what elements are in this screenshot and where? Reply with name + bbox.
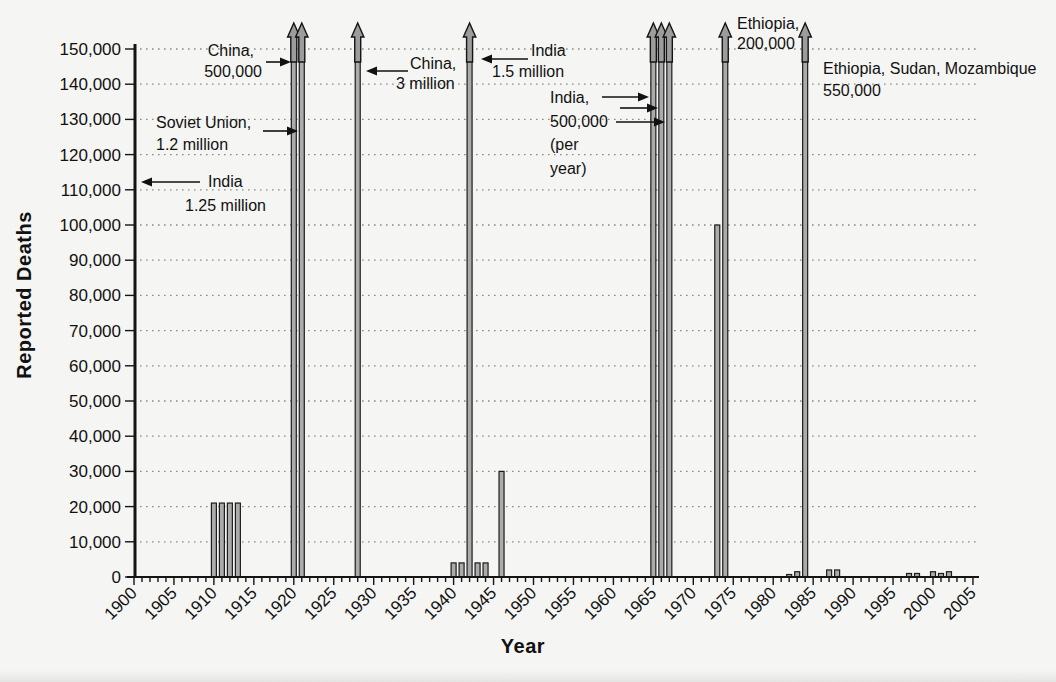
famine-reported-deaths-chart: 010,00020,00030,00040,00050,00060,00070,…	[0, 0, 1056, 682]
bar-1921	[299, 58, 304, 577]
y-tick-label: 20,000	[69, 498, 121, 517]
scan-artifact-band	[0, 670, 1056, 682]
y-tick-label: 100,000	[60, 216, 121, 235]
x-tick-label: 1990	[820, 583, 860, 623]
annotation-china-1928: China,3 million	[396, 55, 456, 92]
chart-plot-area: 010,00020,00030,00040,00050,00060,00070,…	[0, 0, 1056, 682]
y-tick-label: 130,000	[60, 110, 121, 129]
y-tick-label: 90,000	[69, 251, 121, 270]
y-tick-label: 110,000	[61, 181, 121, 200]
y-tick-label: 120,000	[60, 146, 121, 165]
x-tick-label: 1985	[780, 583, 820, 623]
annotation-ethiopia-1974: Ethiopia,200,000	[737, 15, 799, 52]
y-tick-label: 60,000	[69, 357, 121, 376]
annotation-india-1942: India1.5 million	[492, 42, 566, 80]
annotation-arrowhead	[366, 67, 377, 76]
x-tick-label: 1935	[380, 583, 420, 623]
x-tick-label: 1995	[860, 583, 900, 623]
annotation-india-1900: India1.25 million	[185, 173, 266, 214]
bar-1965	[651, 58, 656, 577]
y-tick-label: 80,000	[69, 286, 121, 305]
y-tick-label: 30,000	[69, 462, 121, 481]
y-tick-label: 10,000	[69, 533, 121, 552]
x-tick-label: 1940	[420, 583, 460, 623]
x-tick-label: 1920	[260, 583, 300, 623]
bar-offscale-arrow-1928	[352, 23, 364, 62]
x-tick-label: 1910	[181, 583, 221, 623]
bar-1943	[475, 563, 480, 577]
annotation-arrowhead	[481, 55, 492, 64]
bar-1974	[723, 58, 728, 577]
bar-1984	[803, 58, 808, 577]
annotation-india-1965-67: India,500,000(peryear)	[550, 89, 608, 177]
x-tick-label: 1965	[620, 583, 660, 623]
annotation-soviet-union-1921: Soviet Union,1.2 million	[156, 114, 251, 153]
annotation-china-1920: China,500,000	[204, 42, 262, 80]
bar-1966	[659, 58, 664, 577]
bar-offscale-arrow-1942	[463, 23, 475, 62]
x-tick-label: 1955	[540, 583, 580, 623]
x-tick-label: 1915	[220, 583, 260, 623]
bar-offscale-arrow-1974	[719, 23, 731, 62]
bar-1941	[459, 563, 464, 577]
annotation-ethiopia-sudan-mozambique-1984: Ethiopia, Sudan, Mozambique550,000	[823, 60, 1037, 99]
bar-1967	[667, 58, 672, 577]
x-tick-label: 1925	[300, 583, 340, 623]
bar-1912	[227, 503, 232, 577]
x-tick-label: 1970	[660, 583, 700, 623]
bar-1940	[451, 563, 456, 577]
y-tick-label: 150,000	[60, 40, 121, 59]
x-tick-label: 1960	[580, 583, 620, 623]
annotation-arrowhead	[280, 58, 291, 67]
y-axis-title: Reported Deaths	[13, 211, 36, 379]
bar-1973	[715, 225, 720, 577]
x-tick-label: 1980	[740, 583, 780, 623]
bar-1913	[235, 503, 240, 577]
x-axis-title: Year	[501, 635, 545, 658]
bar-1910	[211, 503, 216, 577]
bar-1942	[467, 58, 472, 577]
y-tick-label: 0	[112, 568, 121, 587]
y-tick-label: 140,000	[60, 75, 121, 94]
bar-1920	[291, 58, 296, 577]
annotation-arrowhead	[638, 93, 649, 102]
bar-1911	[219, 503, 224, 577]
bar-1946	[499, 471, 504, 577]
x-tick-label: 2005	[940, 583, 980, 623]
x-tick-label: 1975	[700, 583, 740, 623]
x-tick-label: 1950	[500, 583, 540, 623]
y-tick-label: 70,000	[69, 322, 121, 341]
x-tick-label: 1900	[101, 583, 141, 623]
x-tick-label: 1930	[340, 583, 380, 623]
bar-offscale-arrow-1984	[799, 23, 811, 62]
y-tick-label: 50,000	[69, 392, 121, 411]
bar-1928	[355, 58, 360, 577]
x-tick-label: 1945	[460, 583, 500, 623]
y-tick-label: 40,000	[69, 427, 121, 446]
bar-1944	[483, 563, 488, 577]
x-tick-label: 1905	[141, 583, 181, 623]
annotation-arrowhead	[141, 178, 152, 187]
x-tick-label: 2000	[900, 583, 940, 623]
